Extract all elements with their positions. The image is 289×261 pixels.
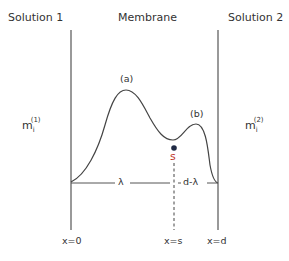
position-xd-label: x=d	[207, 235, 227, 246]
position-xs-label: x=s	[164, 235, 183, 246]
d-minus-lambda-label: d-λ	[183, 176, 198, 187]
peak-b-label: (b)	[190, 108, 203, 119]
energy-barrier-curve	[71, 90, 218, 183]
lambda-label: λ	[118, 176, 124, 187]
site-label: s	[170, 150, 176, 163]
position-x0-label: x=0	[62, 235, 82, 246]
energy-profile-diagram	[0, 0, 289, 261]
peak-a-label: (a)	[120, 73, 133, 84]
